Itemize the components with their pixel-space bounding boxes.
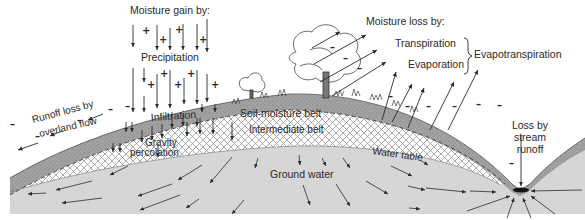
- minus-sign: –: [330, 42, 335, 53]
- minus-sign: –: [405, 101, 410, 112]
- minus-sign: –: [125, 101, 130, 112]
- stream-label-line2: stream: [514, 131, 546, 143]
- minus-sign: –: [476, 99, 481, 110]
- plus-sign: +: [199, 34, 207, 45]
- plus-sign: +: [142, 25, 150, 36]
- precipitation-label: Precipitation: [141, 51, 199, 63]
- plus-sign: +: [174, 79, 182, 90]
- minus-sign: –: [388, 91, 393, 102]
- stream-label-line3: runoff: [517, 143, 544, 155]
- minus-sign: –: [426, 101, 431, 112]
- moisture-loss-heading: Moisture loss by:: [366, 15, 445, 27]
- plus-sign: +: [175, 24, 183, 35]
- minus-sign: –: [10, 119, 15, 130]
- brace: [464, 38, 472, 74]
- plus-sign: +: [160, 68, 168, 79]
- intermediate-belt-label: Intermediate belt: [249, 124, 324, 135]
- evaporation-label: Evaporation: [408, 58, 464, 70]
- transpiration-label: Transpiration: [395, 37, 456, 49]
- soil-moisture-belt-label: Soil-moisture belt: [240, 107, 321, 119]
- plus-sign: +: [211, 79, 219, 90]
- stream-channel: [513, 187, 529, 192]
- ground-water-label: Ground water: [270, 168, 334, 180]
- minus-sign: –: [357, 63, 362, 74]
- plus-sign: +: [159, 34, 167, 45]
- minus-sign: –: [497, 100, 502, 111]
- plus-sign: +: [147, 79, 155, 90]
- plus-sign: +: [187, 68, 195, 79]
- minus-sign: –: [343, 53, 348, 64]
- minus-sign: –: [509, 158, 514, 169]
- hydrologic-diagram: + + + + + + + + + – – – – – – – – –: [0, 0, 585, 220]
- gravity-label-line2: percolation: [130, 147, 179, 158]
- stream-label-line1: Loss by: [512, 119, 549, 131]
- minus-sign: –: [108, 104, 113, 115]
- moisture-gain-heading: Moisture gain by:: [130, 4, 210, 16]
- evapotranspiration-label: Evapotranspiration: [474, 48, 562, 60]
- minus-sign: –: [452, 101, 457, 112]
